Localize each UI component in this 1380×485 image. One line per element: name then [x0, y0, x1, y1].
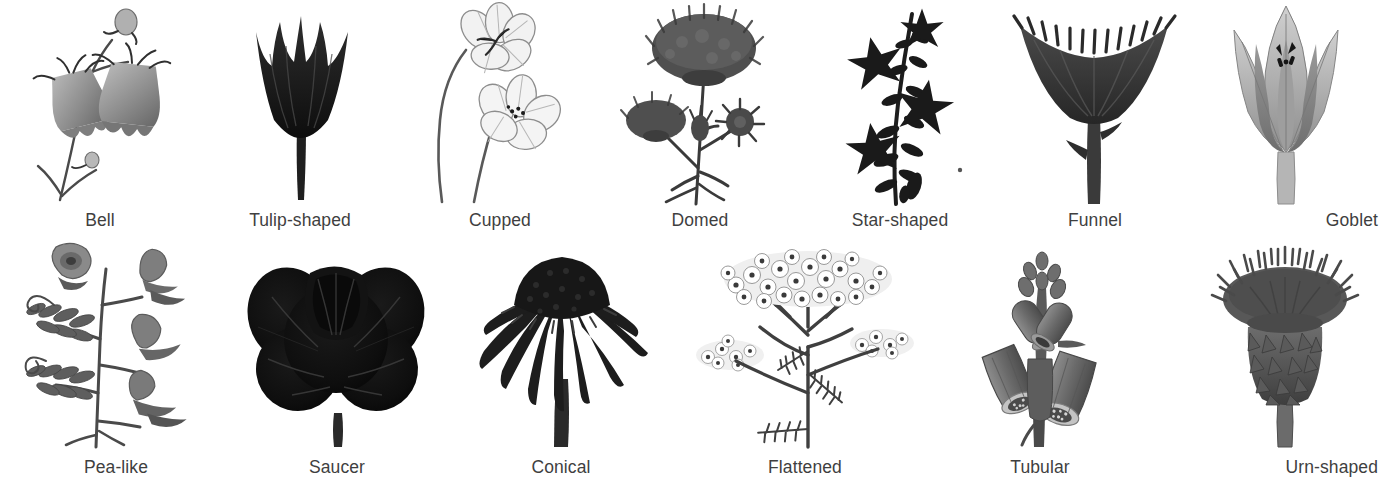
saucer-flower-illustration [232, 243, 442, 448]
flower-label-star-shaped: Star-shaped [800, 208, 1000, 232]
flower-card-goblet[interactable]: Goblet [1190, 0, 1380, 242]
cupped-flower-illustration [400, 0, 600, 205]
flower-label-pea-like: Pea-like [0, 455, 232, 479]
flower-card-star-shaped[interactable]: Star-shaped [800, 0, 1000, 242]
flower-card-pea-like[interactable]: Pea-like [0, 243, 232, 485]
flower-label-cupped: Cupped [400, 208, 600, 232]
flower-card-conical[interactable]: Conical [442, 243, 680, 485]
tulip-flower-illustration [200, 0, 400, 205]
flower-card-domed[interactable]: Domed [600, 0, 800, 242]
urn-flower-illustration [1150, 243, 1380, 448]
flower-label-funnel: Funnel [1000, 208, 1190, 232]
flower-label-conical: Conical [442, 455, 680, 479]
conical-flower-illustration [442, 243, 680, 448]
flower-row-1: Bell Tulip-sh [0, 0, 1380, 242]
flower-shapes-chart: Bell Tulip-sh [0, 0, 1380, 485]
flower-card-flattened[interactable]: Flattened [680, 243, 930, 485]
flower-card-tubular[interactable]: Tubular [930, 243, 1150, 485]
flower-card-bell[interactable]: Bell [0, 0, 200, 242]
flower-label-domed: Domed [600, 208, 800, 232]
funnel-flower-illustration [1000, 0, 1190, 205]
flower-card-cupped[interactable]: Cupped [400, 0, 600, 242]
flower-card-tulip-shaped[interactable]: Tulip-shaped [200, 0, 400, 242]
flower-label-urn-shaped: Urn-shaped [1286, 455, 1378, 479]
tubular-flower-illustration [930, 243, 1150, 448]
flower-label-bell: Bell [0, 208, 200, 232]
flower-card-urn-shaped[interactable]: Urn-shaped [1150, 243, 1380, 485]
pea-flower-illustration [0, 243, 232, 448]
flattened-flower-illustration [680, 243, 930, 448]
flower-label-goblet: Goblet [1326, 208, 1378, 232]
flower-card-funnel[interactable]: Funnel [1000, 0, 1190, 242]
domed-flower-illustration [600, 0, 800, 205]
flower-label-tulip-shaped: Tulip-shaped [200, 208, 400, 232]
flower-row-2: Pea-like [0, 243, 1380, 485]
goblet-flower-illustration [1190, 0, 1380, 205]
flower-label-saucer: Saucer [232, 455, 442, 479]
flower-label-tubular: Tubular [930, 455, 1150, 479]
star-flower-illustration [800, 0, 1000, 205]
flower-card-saucer[interactable]: Saucer [232, 243, 442, 485]
bell-flower-illustration [0, 0, 200, 205]
flower-label-flattened: Flattened [680, 455, 930, 479]
